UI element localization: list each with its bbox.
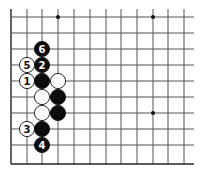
white-stone	[34, 105, 49, 120]
go-board: 625134	[0, 0, 200, 176]
move-number: 6	[39, 44, 46, 55]
move-number: 2	[39, 60, 46, 71]
move-number: 4	[39, 140, 46, 151]
black-stone	[34, 73, 49, 88]
black-stone: 6	[34, 41, 49, 56]
black-stone: 2	[34, 57, 49, 72]
white-stone: 3	[19, 121, 34, 136]
black-stone	[34, 121, 49, 136]
black-stone: 4	[34, 137, 49, 152]
white-stone: 5	[19, 57, 34, 72]
star-point	[151, 15, 155, 19]
black-stone	[50, 105, 65, 120]
white-stone	[34, 89, 49, 104]
star-point	[56, 15, 60, 19]
move-number: 5	[24, 60, 31, 71]
move-number: 3	[24, 124, 31, 135]
white-stone	[50, 73, 65, 88]
star-point	[151, 111, 155, 115]
white-stone: 1	[19, 73, 34, 88]
black-stone	[50, 89, 65, 104]
move-number: 1	[24, 76, 31, 87]
